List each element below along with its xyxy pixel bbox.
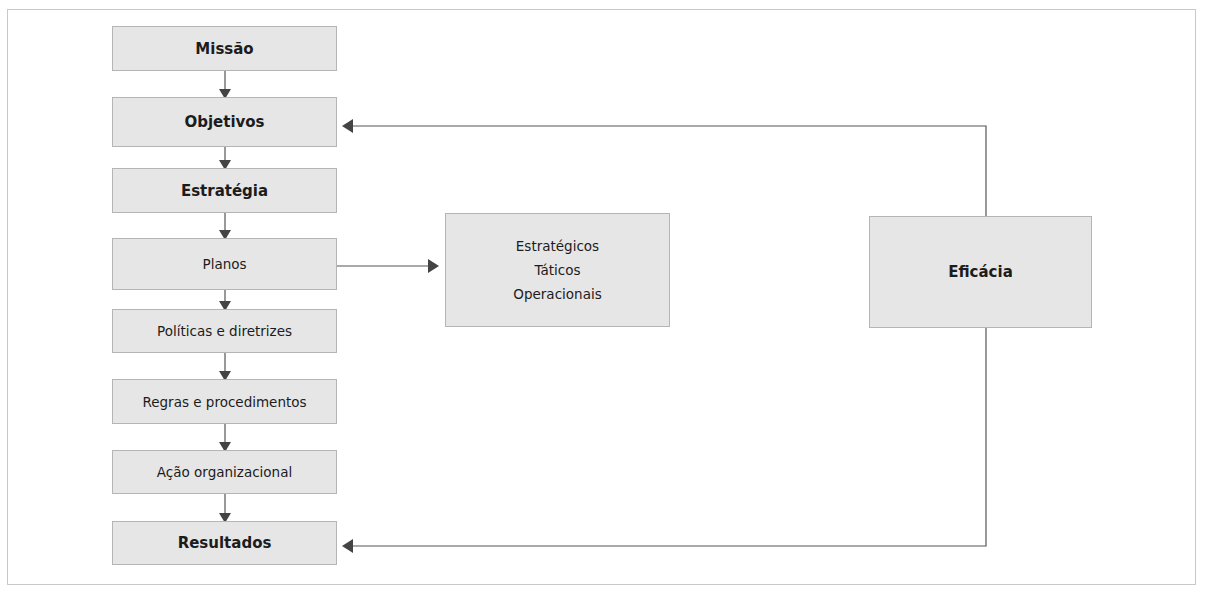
- plan-type-strategic: Estratégicos: [516, 234, 599, 258]
- feedback-to-resultados: [342, 328, 986, 553]
- box-planos: Planos: [112, 238, 337, 290]
- box-acao-organizacional: Ação organizacional: [112, 450, 337, 494]
- box-label: Objetivos: [184, 113, 264, 131]
- box-label: Ação organizacional: [157, 464, 292, 480]
- box-label: Eficácia: [948, 263, 1013, 281]
- box-politicas-diretrizes: Políticas e diretrizes: [112, 309, 337, 353]
- planos-arrow: [337, 259, 439, 273]
- box-estrategia: Estratégia: [112, 168, 337, 213]
- box-label: Missão: [195, 40, 253, 58]
- box-resultados: Resultados: [112, 521, 337, 565]
- box-label: Planos: [202, 256, 246, 272]
- plan-type-tactical: Táticos: [534, 258, 580, 282]
- box-label: Regras e procedimentos: [142, 394, 306, 410]
- box-plan-types: Estratégicos Táticos Operacionais: [445, 213, 670, 327]
- plan-type-operational: Operacionais: [513, 282, 601, 306]
- box-missao: Missão: [112, 26, 337, 71]
- box-regras-procedimentos: Regras e procedimentos: [112, 379, 337, 424]
- box-eficacia: Eficácia: [869, 216, 1092, 328]
- feedback-to-objetivos: [342, 119, 986, 216]
- box-label: Estratégia: [181, 182, 268, 200]
- box-objetivos: Objetivos: [112, 97, 337, 147]
- box-label: Resultados: [178, 534, 272, 552]
- box-label: Políticas e diretrizes: [157, 323, 292, 339]
